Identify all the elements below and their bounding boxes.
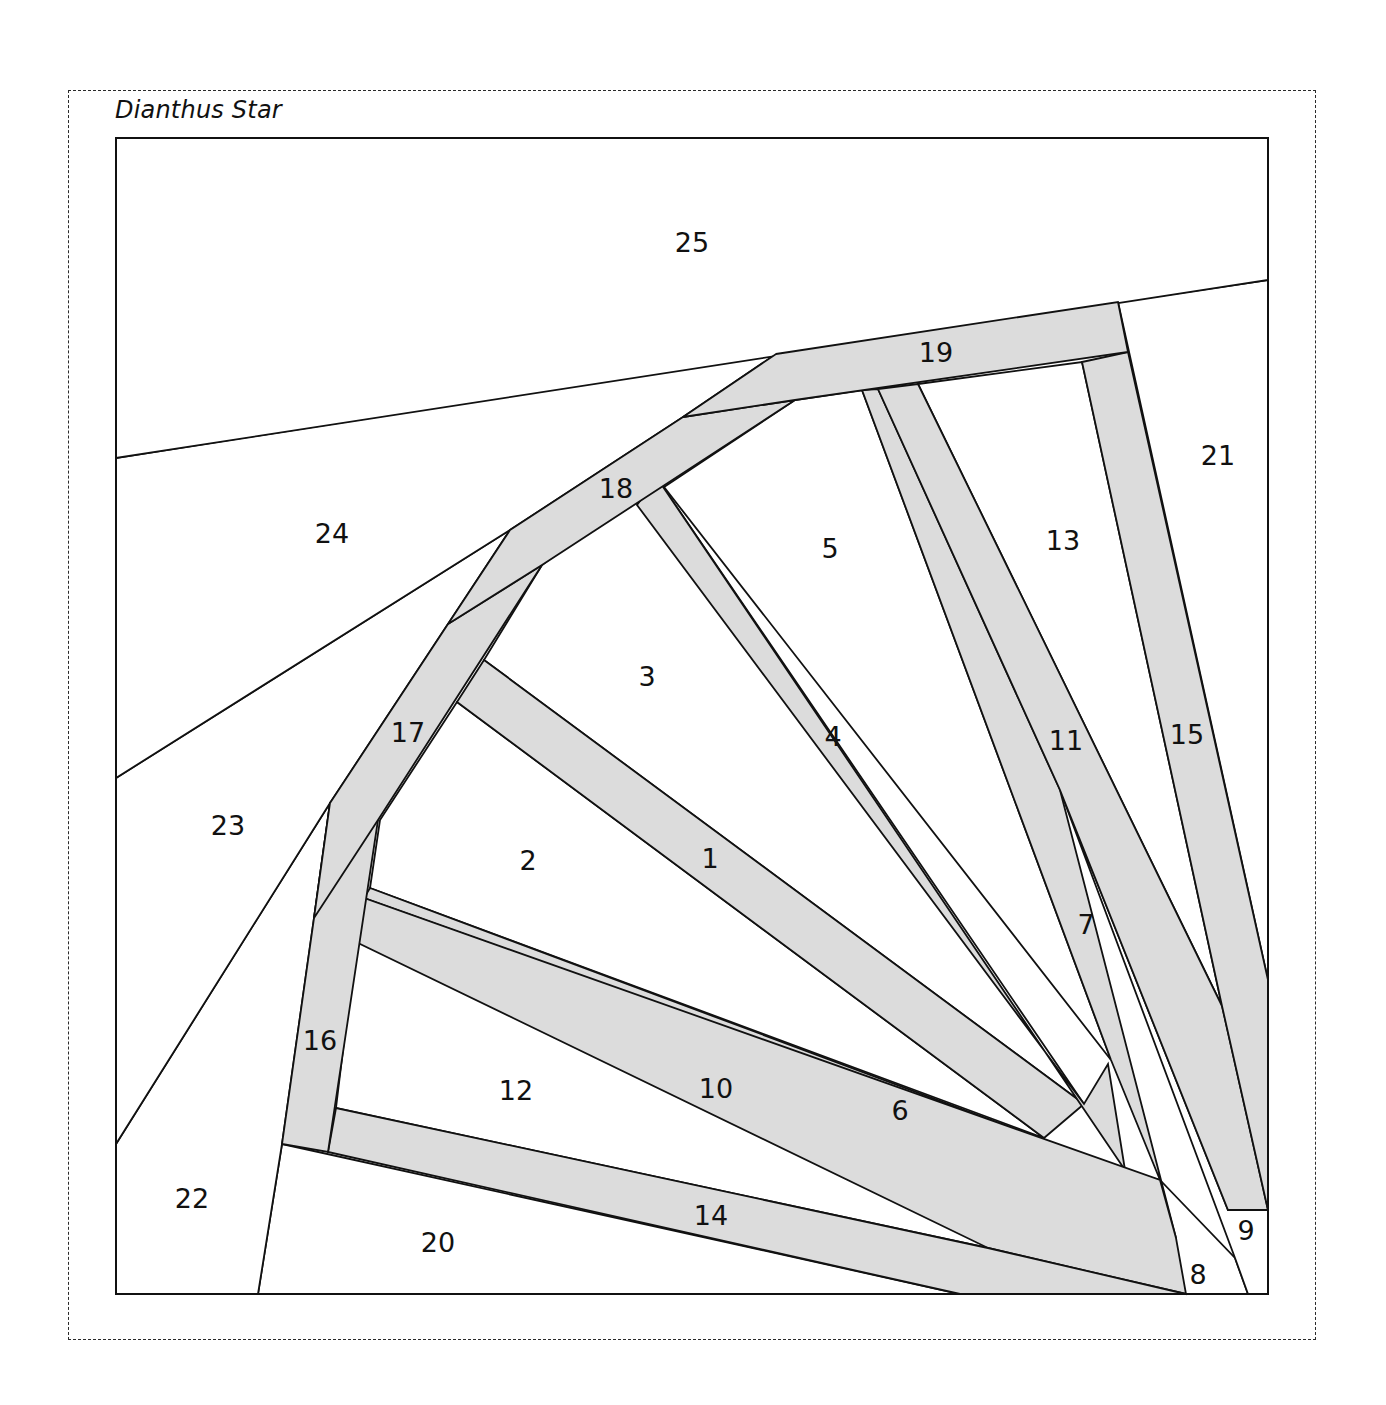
piece-label-20: 20 [421,1227,455,1258]
piece-label-12: 12 [499,1075,533,1106]
piece-label-11: 11 [1049,725,1083,756]
piece-label-18: 18 [599,473,633,504]
piece-label-19: 19 [919,337,953,368]
piece-label-10: 10 [699,1073,733,1104]
quilt-pattern-page: Dianthus Star 12345678910111213141516171… [0,0,1386,1405]
pieces-layer [116,138,1268,1294]
piece-label-22: 22 [175,1183,209,1214]
piece-label-24: 24 [315,518,349,549]
piece-label-25: 25 [675,227,709,258]
paper-piecing-diagram: 1234567891011121314151617181920212223242… [0,0,1386,1405]
piece-label-13: 13 [1046,525,1080,556]
piece-label-5: 5 [821,533,838,564]
piece-label-23: 23 [211,810,245,841]
piece-label-7: 7 [1077,909,1094,940]
piece-label-4: 4 [824,721,841,752]
piece-label-17: 17 [391,717,425,748]
piece-label-6: 6 [891,1095,908,1126]
piece-label-3: 3 [638,661,655,692]
piece-label-14: 14 [694,1200,728,1231]
piece-label-1: 1 [701,843,718,874]
piece-label-8: 8 [1189,1259,1206,1290]
piece-label-16: 16 [303,1025,337,1056]
piece-label-9: 9 [1237,1215,1254,1246]
piece-label-2: 2 [519,845,536,876]
piece-label-21: 21 [1201,440,1235,471]
piece-label-15: 15 [1170,719,1204,750]
